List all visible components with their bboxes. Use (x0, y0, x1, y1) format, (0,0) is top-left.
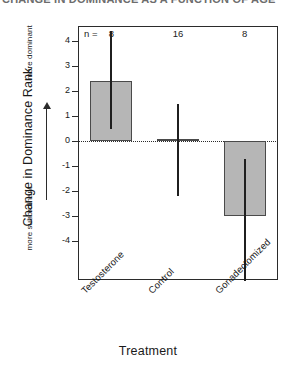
error-bar (177, 104, 179, 197)
y-axis-tick (72, 116, 78, 117)
y-axis-direction-top-label: more dominant (25, 22, 34, 84)
y-axis-tick-label: 2 (46, 86, 70, 95)
y-axis-tick (72, 241, 78, 242)
y-axis-tick (72, 66, 78, 67)
y-axis-tick-label: 3 (46, 61, 70, 70)
y-axis-tick (72, 91, 78, 92)
y-axis-tick-label: -2 (46, 186, 70, 195)
y-axis-tick (72, 166, 78, 167)
y-axis-tick-label: -3 (46, 211, 70, 220)
clipped-caption-strip (0, 365, 296, 371)
chart-figure: Change in Dominance Rank more dominant m… (0, 0, 296, 371)
sample-size-value: 16 (158, 29, 198, 39)
error-bar-overflow (244, 280, 246, 281)
y-axis-tick-label: 1 (46, 111, 70, 120)
y-axis-tick-label: -1 (46, 161, 70, 170)
x-axis-title: Treatment (0, 344, 296, 358)
y-axis-tick-label: 4 (46, 36, 70, 45)
y-axis-tick-label: 0 (46, 136, 70, 145)
y-axis-tick-label: -4 (46, 236, 70, 245)
y-axis-tick (72, 216, 78, 217)
y-axis-direction-bottom-label: more subordinant (25, 184, 34, 254)
error-bar (110, 31, 112, 129)
y-axis-tick (72, 41, 78, 42)
y-axis-tick (72, 191, 78, 192)
sample-size-value: 8 (225, 29, 265, 39)
